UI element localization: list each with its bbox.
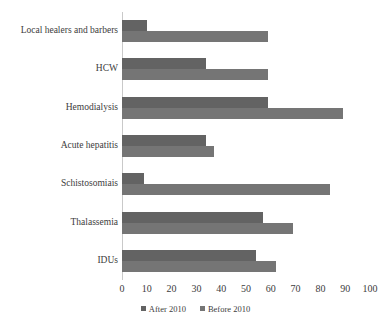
x-axis-tick-label: 90 (340, 282, 350, 296)
x-axis-tick-label: 20 (167, 282, 177, 296)
legend: After 2010Before 2010 (0, 302, 391, 315)
plot-area (122, 12, 370, 280)
legend-swatch-icon (141, 306, 146, 311)
bar-before-2010 (122, 184, 330, 195)
category-label: HCW (2, 63, 118, 74)
x-axis: 0102030405060708090100 (122, 282, 370, 298)
x-axis-tick-label: 50 (241, 282, 251, 296)
bar-group (122, 20, 370, 42)
legend-label: Before 2010 (208, 303, 250, 315)
x-axis-tick-label: 70 (291, 282, 301, 296)
category-label: Thalassemia (2, 217, 118, 228)
bar-group (122, 135, 370, 157)
category-label-group: Local healers and barbersHCWHemodialysis… (0, 12, 118, 280)
x-axis-tick-label: 80 (315, 282, 325, 296)
bar-before-2010 (122, 69, 268, 80)
bar-after-2010 (122, 135, 206, 146)
x-axis-tick-label: 60 (266, 282, 276, 296)
category-label: Local healers and barbers (2, 25, 118, 36)
bar-after-2010 (122, 97, 268, 108)
x-axis-tick-label: 0 (120, 282, 125, 296)
bar-chart: Local healers and barbersHCWHemodialysis… (0, 0, 391, 323)
bar-before-2010 (122, 146, 214, 157)
legend-label: After 2010 (149, 303, 186, 315)
category-label: IDUs (2, 255, 118, 266)
legend-item-before-2010: Before 2010 (200, 302, 250, 315)
x-axis-tick-label: 30 (191, 282, 201, 296)
bar-after-2010 (122, 58, 206, 69)
x-axis-tick-label: 100 (363, 282, 378, 296)
category-label: Acute hepatitis (2, 140, 118, 151)
bar-before-2010 (122, 223, 293, 234)
bar-after-2010 (122, 250, 256, 261)
bar-group (122, 212, 370, 234)
bar-group (122, 58, 370, 80)
bar-group (122, 173, 370, 195)
x-axis-tick-label: 10 (142, 282, 152, 296)
legend-item-after-2010: After 2010 (141, 302, 186, 315)
bar-before-2010 (122, 31, 268, 42)
bar-before-2010 (122, 261, 276, 272)
bar-after-2010 (122, 173, 144, 184)
category-label: Hemodialysis (2, 102, 118, 113)
category-label: Schistosomiais (2, 178, 118, 189)
legend-swatch-icon (200, 306, 205, 311)
x-axis-tick-label: 40 (216, 282, 226, 296)
bar-after-2010 (122, 20, 147, 31)
bar-group (122, 250, 370, 272)
bar-before-2010 (122, 108, 343, 119)
bar-after-2010 (122, 212, 263, 223)
bar-group (122, 97, 370, 119)
